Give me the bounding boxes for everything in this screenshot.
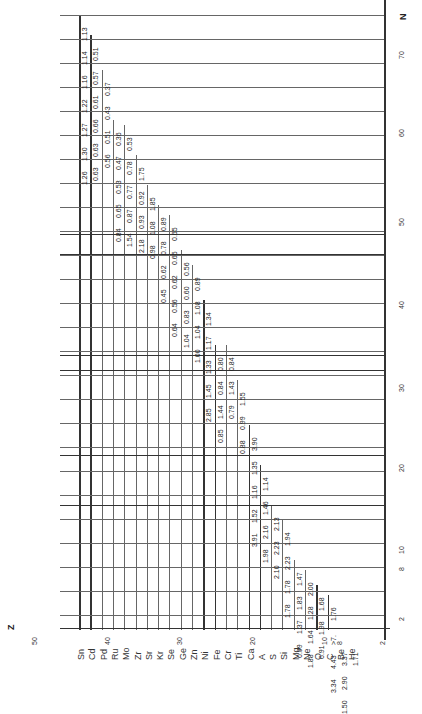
n-tick: 40 [398,301,405,309]
n-tick: 20 [398,464,405,472]
cell-value: 2.00 [307,582,314,596]
cell-value: 0.63 [92,167,99,181]
element-label: Sr [144,651,154,660]
cell-value: 1.75 [138,167,145,181]
element-label: C [325,654,335,661]
cell-value: 1.08 [149,221,156,235]
z-tick: 30 [176,637,183,645]
element-label: Ne [302,648,312,660]
cell-value: 1.78 [284,580,291,594]
n-grid-line [60,591,385,592]
n-tick: 8 [398,567,405,571]
cell-value: 0.56 [171,299,178,313]
cell-value: 0.80 [217,357,224,371]
element-label: Si [279,652,289,660]
cell-value: 1.85 [149,197,156,211]
column-line [294,560,295,630]
element-label: Ge [178,648,188,660]
n-grid-line [60,567,385,568]
n-grid-line [60,495,385,496]
cell-value: 0.47 [115,156,122,170]
element-label: O [313,653,323,660]
cell-value: 1.68 [318,597,325,611]
cell-value: 0.61 [92,95,99,109]
cell-value: 1.13 [81,27,88,41]
element-label: Be [336,649,346,660]
cell-value: 0.99 [239,416,246,430]
cell-value: 0.65 [115,204,122,218]
element-label: Fe [212,649,222,660]
cell-value: 0.78 [126,161,133,175]
z-axis-line [60,628,390,629]
n-tick: 2 [398,617,405,621]
z-tick: 50 [31,637,38,645]
n-grid-line [60,447,385,448]
cell-value: 1.16 [81,75,88,89]
cell-value: 0.83 [183,310,190,324]
n-tick: 30 [398,384,405,392]
cell-value: 1.34 [205,312,212,326]
n-axis-label: N [398,14,408,21]
n-grid-line [60,183,385,184]
n-grid-line [60,519,385,520]
n-grid-line [60,15,385,16]
z-tick: 10 [321,637,328,645]
cell-value: 0.51 [104,130,111,144]
magic-number-line [60,254,385,255]
n-grid-line [60,399,385,400]
cell-value: 0.62 [171,275,178,289]
n-tick: 50 [398,218,405,226]
magic-number-line [60,505,385,506]
cell-value: 3.90 [251,437,258,451]
cell-value: 2.23 [284,556,291,570]
cell-value: 1.64 [307,630,314,644]
n-grid-line [60,543,385,544]
cell-value: 1.04 [183,334,190,348]
cell-value: 0.66 [92,119,99,133]
cell-value: 1.35 [251,461,258,475]
cell-value: 1.52 [251,509,258,523]
magic-number-line [60,234,385,235]
n-axis-line [384,0,386,640]
cell-value: 0.84 [217,381,224,395]
n-grid-line [60,471,385,472]
cell-value: 0.89 [160,217,167,231]
column-line [226,345,227,630]
element-label: Sn [76,649,86,660]
cell-value: 0.45 [160,289,167,303]
cell-value: 2.90 [341,676,348,690]
cell-value: 0.93 [138,215,145,229]
column-line [215,345,217,630]
cell-value: 1.83 [296,596,303,610]
element-label: Cd [87,648,97,660]
cell-value: 0.36 [115,132,122,146]
cell-value: 1.50 [341,700,348,714]
n-grid-line [60,327,385,328]
cell-value: 2.85 [205,408,212,422]
n-grid-line [60,303,385,304]
column-line [181,250,182,630]
cell-value: 0.98 [149,245,156,259]
cell-value: 1.16 [251,485,258,499]
cell-value: 0.64 [171,323,178,337]
cell-value: 0.88 [239,440,246,454]
element-label: Ni [200,652,210,661]
cell-value: 2.18 [138,239,145,253]
n-grid-line [60,39,385,40]
cell-value: 0.87 [126,209,133,223]
cell-value: 1.14 [262,477,269,491]
cell-value: 0.53 [126,137,133,151]
cell-value: 1.33 [205,360,212,374]
element-label: Pd [99,649,109,660]
column-line [102,70,103,630]
z-tick: 2 [379,641,386,645]
cell-value: 1.46 [262,501,269,515]
element-label: Zr [133,652,143,661]
element-label: A [257,654,267,660]
cell-value: 0.62 [160,265,167,279]
cell-value: 0.84 [115,228,122,242]
cell-value: 1.37 [296,620,303,634]
cell-value: 3.91 [251,533,258,547]
element-label: Kr [155,651,165,660]
n-tick: 60 [398,129,405,137]
